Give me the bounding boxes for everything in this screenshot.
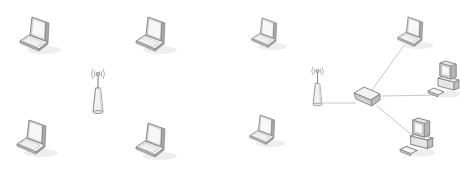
antenna-icon: [92, 69, 105, 114]
laptop-icon: [20, 17, 61, 54]
desktop-icon: [400, 118, 435, 156]
link-line: [381, 95, 440, 96]
link-line: [377, 106, 412, 135]
desktop-icon: [428, 61, 460, 98]
link-line: [372, 44, 405, 90]
laptop-icon: [250, 115, 285, 147]
ad-hoc-network-panel: [17, 17, 177, 160]
infrastructure-network-panel: [250, 17, 460, 156]
laptop-icon: [17, 120, 58, 157]
antenna-icon: [312, 67, 323, 106]
switch-icon: [354, 87, 380, 106]
laptop-icon: [398, 17, 433, 49]
laptop-icon: [136, 123, 177, 160]
laptop-icon: [252, 18, 287, 50]
laptop-icon: [136, 17, 177, 54]
network-diagram: [0, 0, 460, 175]
